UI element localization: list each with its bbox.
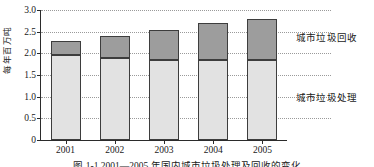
y-axis-tick-label: 3.0	[24, 5, 36, 15]
y-axis-tick-label: 0	[31, 135, 36, 145]
x-axis-tick-label-2003: 2003	[155, 145, 174, 155]
y-axis-tick	[37, 10, 41, 11]
bar-segment-recycle[interactable]	[247, 19, 277, 61]
y-axis-tick-label: 1.5	[24, 70, 36, 80]
bar-segment-treat[interactable]	[100, 58, 130, 140]
gridline	[41, 97, 331, 98]
y-axis-tick-label: 0.5	[24, 113, 36, 123]
figure-caption: 图 1-1 2001—2005 年国内城市垃圾处理及回收的变化	[0, 158, 374, 167]
chart-figure: 每年百万吨 00.51.01.52.02.53.0200120022003200…	[0, 0, 374, 167]
x-axis-tick-label-2002: 2002	[105, 145, 124, 155]
x-axis-tick	[262, 140, 263, 144]
x-axis-tick	[66, 140, 67, 144]
legend-item-treat: 城市垃圾处理	[296, 90, 357, 104]
gridline	[41, 53, 331, 54]
x-axis-tick	[115, 140, 116, 144]
y-axis-tick	[37, 75, 41, 76]
bar-segment-recycle[interactable]	[198, 23, 228, 60]
bar-segment-recycle[interactable]	[149, 30, 179, 61]
bar-segment-treat[interactable]	[149, 60, 179, 140]
bar-segment-treat[interactable]	[247, 60, 277, 140]
y-axis-tick	[37, 118, 41, 119]
x-axis-tick-label-2004: 2004	[204, 145, 223, 155]
x-axis-tick	[164, 140, 165, 144]
legend-item-recycle: 城市垃圾回收	[296, 30, 357, 44]
y-axis-tick	[37, 140, 41, 141]
y-axis-tick	[37, 97, 41, 98]
bar-segment-treat[interactable]	[198, 60, 228, 140]
gridline	[41, 118, 331, 119]
gridline	[41, 75, 331, 76]
plot-area: 00.51.01.52.02.53.020012002200320042005	[40, 10, 287, 141]
bar-segment-treat[interactable]	[51, 55, 81, 140]
bar-2001[interactable]	[51, 41, 81, 140]
bar-2005[interactable]	[247, 19, 277, 140]
bar-2004[interactable]	[198, 23, 228, 140]
bar-segment-recycle[interactable]	[100, 36, 130, 58]
y-axis-tick-label: 2.5	[24, 27, 36, 37]
x-axis-tick-label-2001: 2001	[56, 145, 75, 155]
y-axis-tick-label: 2.0	[24, 48, 36, 58]
gridline	[41, 32, 331, 33]
y-axis-title: 每年百万吨	[0, 14, 12, 86]
x-axis-tick-label-2005: 2005	[253, 145, 272, 155]
y-axis-tick-label: 1.0	[24, 92, 36, 102]
x-axis-tick	[213, 140, 214, 144]
bar-segment-recycle[interactable]	[51, 41, 81, 54]
bar-2002[interactable]	[100, 36, 130, 140]
y-axis-tick	[37, 53, 41, 54]
gridline	[41, 10, 331, 11]
bar-2003[interactable]	[149, 30, 179, 141]
y-axis-tick	[37, 32, 41, 33]
